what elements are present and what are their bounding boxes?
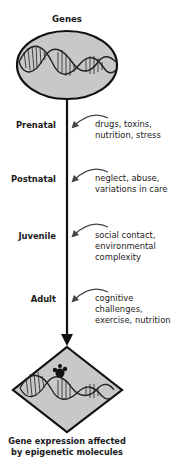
factors-adult: cognitive challenges, exercise, nutritio… (95, 293, 171, 326)
factors-postnatal: neglect, abuse, variations in care (95, 173, 168, 195)
genes-ellipse (17, 31, 117, 99)
gene-expression-caption: Gene expression affected by epigenetic m… (0, 436, 134, 458)
factors-juvenile: social contact, environmental complexity (95, 230, 156, 263)
stage-label-adult: Adult (0, 294, 56, 304)
stage-label-juvenile: Juvenile (0, 231, 56, 241)
gene-expression-diamond (13, 347, 122, 432)
timeline-arrowhead-icon (61, 334, 73, 346)
factors-prenatal: drugs, toxins, nutrition, stress (95, 119, 161, 141)
genes-label: Genes (42, 14, 92, 24)
stage-label-prenatal: Prenatal (0, 120, 56, 130)
stage-label-postnatal: Postnatal (0, 174, 56, 184)
